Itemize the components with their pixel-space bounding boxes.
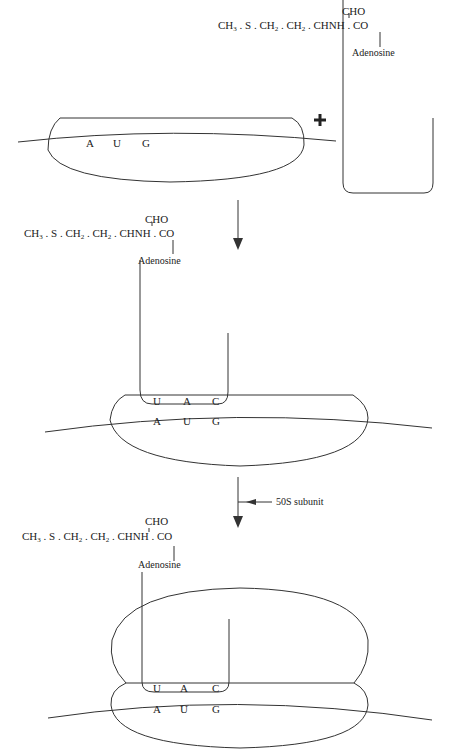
anticodon-base-2: A — [180, 683, 188, 694]
formyl-group-1: CHO — [342, 6, 365, 17]
codon-base-3: G — [212, 704, 220, 715]
adenosine-label-1: Adenosine — [352, 48, 395, 58]
arrow-1-head — [233, 238, 243, 250]
small-subunit-2 — [110, 395, 368, 466]
anticodon-base-1: U — [153, 396, 161, 407]
anticodon-base-3: C — [212, 396, 219, 407]
plus-icon — [314, 114, 326, 126]
large-subunit-3 — [111, 588, 368, 683]
codon-base-2: U — [180, 704, 188, 715]
formyl-group-3: CHO — [145, 516, 168, 527]
codon-base-1: A — [86, 138, 94, 149]
subunit-arrow-head — [246, 499, 256, 505]
anticodon-base-1: U — [153, 683, 161, 694]
formula-2: CH3 . S . CH2 . CH2 . CHNH . CO — [24, 228, 174, 241]
small-subunit-1 — [48, 118, 304, 182]
formula-3: CH3 . S . CH2 . CH2 . CHNH . CO — [22, 531, 172, 544]
codon-base-3: G — [142, 138, 150, 149]
trna-2 — [140, 260, 228, 404]
arrow-2-head — [233, 516, 243, 528]
trna-3 — [142, 572, 229, 692]
mrna-strand-1 — [18, 133, 336, 142]
formula-1: CH3 . S . CH2 . CH2 . CHNH . CO — [218, 20, 368, 33]
50s-subunit-label: 50S subunit — [276, 497, 324, 507]
adenosine-label-2: Adenosine — [138, 256, 181, 266]
adenosine-label-3: Adenosine — [138, 560, 181, 570]
codon-base-2: U — [183, 416, 191, 427]
anticodon-base-2: A — [183, 396, 191, 407]
codon-base-1: A — [153, 704, 161, 715]
small-subunit-3 — [111, 683, 368, 748]
diagram-canvas — [0, 0, 456, 756]
mrna-strand-3 — [48, 704, 432, 720]
codon-base-3: G — [212, 416, 220, 427]
formyl-group-2: CHO — [145, 214, 168, 225]
codon-base-1: A — [153, 416, 161, 427]
anticodon-base-3: C — [212, 683, 219, 694]
codon-base-2: U — [113, 138, 121, 149]
mrna-strand-2 — [45, 417, 432, 432]
